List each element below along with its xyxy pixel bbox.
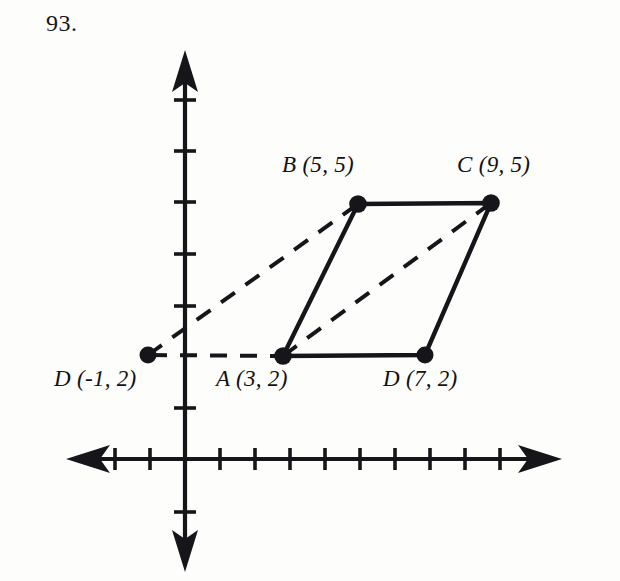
point-marker-C	[482, 194, 500, 212]
dashed-segment-Dneg-A	[150, 355, 283, 356]
axes-group	[80, 62, 548, 548]
coordinate-plane-figure	[0, 0, 620, 581]
axis-arrowheads	[66, 50, 562, 572]
figure-page: 93.	[0, 0, 620, 581]
point-label-A: A (3, 2)	[216, 366, 288, 392]
point-marker-D7	[417, 347, 434, 364]
point-label-B: B (5, 5)	[282, 152, 354, 178]
point-marker-B	[349, 195, 367, 213]
point-label-D-seven: D (7, 2)	[383, 366, 458, 392]
point-marker-A	[274, 347, 292, 365]
point-label-C: C (9, 5)	[457, 152, 530, 178]
point-marker-Dneg	[140, 347, 157, 364]
dashed-segment-Dneg-B	[148, 204, 358, 355]
point-label-D-negative-one: D (-1, 2)	[54, 366, 137, 392]
